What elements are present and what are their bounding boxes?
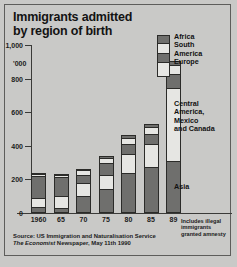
y-tick-label: 0 xyxy=(19,210,23,217)
bar-segment-central-america-mexico-and-canada xyxy=(55,197,68,209)
bar-segment-central-america-mexico-and-canada xyxy=(32,199,45,208)
bar-segment-europe xyxy=(77,176,90,184)
legend-label-central-america: CentralAmerica,Mexicoand Canada xyxy=(174,100,215,134)
bar-segment-asia xyxy=(55,209,68,213)
bar-segment-europe xyxy=(55,178,68,196)
bar-segment-asia xyxy=(100,190,113,212)
y-tick-label: 1,000 xyxy=(5,42,23,49)
source-line-1: Source: US Immigration and Naturalisatio… xyxy=(13,233,183,240)
legend-swatch-central-america xyxy=(158,63,169,76)
y-tick-label: 600 xyxy=(11,109,23,116)
legend-top-labels: AfricaSouthAmericaEurope xyxy=(174,33,202,67)
legend-stack-swatch xyxy=(157,35,170,77)
bar-segment-asia xyxy=(122,174,135,212)
bar-segment-europe xyxy=(32,177,45,199)
bar-segment-central-america-mexico-and-canada xyxy=(100,176,113,191)
chart-title-line-2: by region of birth xyxy=(13,25,163,39)
legend-swatch-europe xyxy=(158,54,169,63)
bar-70[interactable] xyxy=(76,169,91,213)
bar-segment-asia xyxy=(77,197,90,212)
legend-swatch-africa xyxy=(158,36,169,44)
bar-segment-central-america-mexico-and-canada xyxy=(77,184,90,197)
bar-segment-europe xyxy=(145,135,158,146)
y-tick-label: 200 xyxy=(11,176,23,183)
bar-segment-europe xyxy=(167,75,180,89)
bar-85[interactable] xyxy=(144,124,159,213)
source-line-2: The Economist Newspaper, May 11th 1990 xyxy=(13,240,183,247)
source-date: Newspaper, May 11th 1990 xyxy=(55,240,131,246)
x-axis-line xyxy=(17,213,232,214)
legend-label-asia: Asia xyxy=(174,183,189,191)
chart-title: Immigrants admitted by region of birth xyxy=(13,11,163,38)
y-tick-mark xyxy=(25,213,31,214)
bar-segment-asia xyxy=(32,208,45,212)
bar-80[interactable] xyxy=(121,135,136,213)
bar-65[interactable] xyxy=(54,174,69,213)
source-publication: The Economist xyxy=(13,240,55,246)
source-note: Source: US Immigration and Naturalisatio… xyxy=(13,233,183,247)
chart-frame: Immigrants admitted by region of birth '… xyxy=(4,4,231,256)
bar-segment-asia xyxy=(145,168,158,212)
y-axis-unit-label: '000 xyxy=(13,60,26,67)
y-tick-label: 400 xyxy=(11,142,23,149)
bar-segment-south-america xyxy=(145,128,158,135)
bar-1960[interactable] xyxy=(31,173,46,213)
bar-segment-europe xyxy=(122,145,135,155)
bar-segment-europe xyxy=(100,164,113,175)
y-tick-label: 800 xyxy=(11,75,23,82)
bar-segment-central-america-mexico-and-canada xyxy=(122,155,135,175)
bar-segment-central-america-mexico-and-canada xyxy=(145,145,158,168)
chart-title-line-1: Immigrants admitted xyxy=(13,11,163,25)
legend-swatch-south-america xyxy=(158,44,169,54)
footnote: Includes illegalimmigrantsgranted amnest… xyxy=(181,218,233,237)
bar-75[interactable] xyxy=(99,156,114,213)
